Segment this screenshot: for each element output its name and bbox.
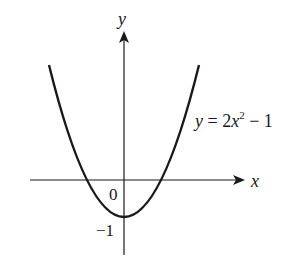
origin-label: 0 (109, 185, 118, 204)
y-intercept-label: −1 (96, 221, 114, 240)
y-axis-label: y (116, 9, 126, 29)
curve-equation-label: y = 2x2 − 1 (193, 109, 273, 131)
x-axis-label: x (250, 171, 259, 191)
parabola-graph: y x 0 −1 y = 2x2 − 1 (0, 0, 308, 278)
